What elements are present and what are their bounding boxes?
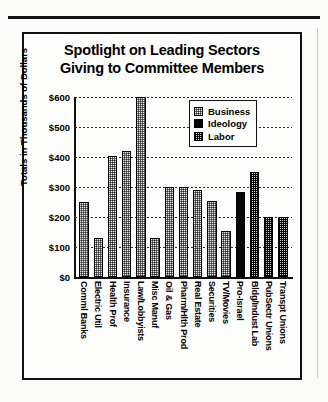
bar[interactable]: [165, 187, 175, 277]
bar[interactable]: [122, 151, 132, 277]
x-label-slot: PubSectr Unions: [262, 280, 276, 372]
y-axis-label: Totals in Thousands of Dollars: [18, 48, 29, 186]
x-axis-tick-label: Securities: [207, 281, 217, 322]
bar[interactable]: [179, 187, 189, 277]
x-axis-tick-label: Health Prof: [108, 281, 118, 327]
x-axis-line: [74, 277, 293, 279]
bar-slot: [276, 97, 290, 277]
x-label-slot: Bldg/Indust Lab: [247, 280, 261, 372]
x-axis-tick-label: Comml Banks: [79, 281, 89, 339]
bar-series: [75, 97, 292, 277]
x-label-slot: Comml Banks: [77, 280, 91, 372]
page-column-rule: [317, 28, 318, 378]
x-label-slot: Law/Lobbyists: [134, 280, 148, 372]
bar-slot: [262, 97, 276, 277]
y-axis-tick-label: $600: [49, 92, 70, 103]
x-label-slot: Pro-Israel: [233, 280, 247, 372]
y-axis-tick-label: $0: [59, 272, 70, 283]
bar-slot: [120, 97, 134, 277]
bar[interactable]: [150, 238, 160, 277]
x-axis-tick-label: Law/Lobbyists: [136, 281, 146, 341]
x-label-slot: Misc Manuf: [148, 280, 162, 372]
x-label-slot: Pharm/Hlth Prod: [176, 280, 190, 372]
x-label-slot: TV/Movies: [219, 280, 233, 372]
bar[interactable]: [236, 192, 246, 278]
legend-item: Business: [194, 106, 250, 117]
y-axis-tick-label: $200: [49, 212, 70, 223]
x-label-slot: Securities: [205, 280, 219, 372]
x-axis-tick-label: Electric Util: [93, 281, 103, 328]
bar[interactable]: [221, 231, 231, 278]
legend-label: Business: [208, 106, 250, 117]
bar[interactable]: [94, 238, 104, 277]
x-axis-tick-label: PubSectr Unions: [264, 281, 274, 351]
bar-slot: [134, 97, 148, 277]
bar-slot: [148, 97, 162, 277]
legend-swatch-icon: [194, 119, 203, 128]
chart-figure: Spotlight on Leading Sectors Giving to C…: [22, 32, 302, 380]
legend-swatch-icon: [194, 107, 203, 116]
x-axis-tick-label: TV/Movies: [221, 281, 231, 324]
legend-item: Labor: [194, 131, 250, 142]
x-label-slot: Real Estate: [191, 280, 205, 372]
chart-title-line-2: Giving to Committee Members: [24, 59, 300, 77]
scanned-page: Spotlight on Leading Sectors Giving to C…: [0, 0, 328, 402]
y-axis-tick-label: $100: [49, 242, 70, 253]
x-axis-tick-label: Oil & Gas: [164, 281, 174, 320]
x-axis-category-labels: Comml BanksElectric UtilHealth ProfInsur…: [75, 280, 292, 372]
x-label-slot: Oil & Gas: [162, 280, 176, 372]
chart-title: Spotlight on Leading Sectors Giving to C…: [24, 41, 300, 77]
bar[interactable]: [207, 201, 217, 278]
x-axis-tick-label: Real Estate: [193, 281, 203, 327]
x-label-slot: Transpt Unions: [276, 280, 290, 372]
bar-slot: [77, 97, 91, 277]
bar-slot: [105, 97, 119, 277]
x-axis-tick-label: Insurance: [122, 281, 132, 322]
legend-label: Labor: [208, 131, 234, 142]
page-top-rule: [8, 16, 320, 19]
bar-slot: [91, 97, 105, 277]
x-label-slot: Insurance: [120, 280, 134, 372]
chart-title-line-1: Spotlight on Leading Sectors: [24, 41, 300, 59]
x-axis-tick-label: Pro-Israel: [235, 281, 245, 321]
bar[interactable]: [79, 202, 89, 277]
x-label-slot: Health Prof: [105, 280, 119, 372]
bar[interactable]: [136, 97, 146, 277]
bar[interactable]: [108, 156, 118, 278]
x-axis-tick-label: Pharm/Hlth Prod: [179, 281, 189, 349]
bar[interactable]: [193, 190, 203, 277]
legend-item: Ideology: [194, 118, 250, 129]
legend-label: Ideology: [208, 118, 247, 129]
legend-swatch-icon: [194, 132, 203, 141]
chart-legend: BusinessIdeologyLabor: [189, 100, 257, 147]
bar[interactable]: [250, 172, 260, 277]
y-axis-tick-label: $400: [49, 152, 70, 163]
x-axis-tick-label: Misc Manuf: [150, 281, 160, 328]
x-label-slot: Electric Util: [91, 280, 105, 372]
y-axis-tick-label: $300: [49, 182, 70, 193]
bar[interactable]: [264, 217, 274, 277]
y-axis-tick-label: $500: [49, 122, 70, 133]
bar[interactable]: [278, 217, 288, 277]
x-axis-tick-label: Bldg/Indust Lab: [250, 281, 260, 346]
bar-slot: [162, 97, 176, 277]
x-axis-tick-label: Transpt Unions: [278, 281, 288, 344]
plot-area: $600$500$400$300$200$100$0: [75, 97, 292, 277]
